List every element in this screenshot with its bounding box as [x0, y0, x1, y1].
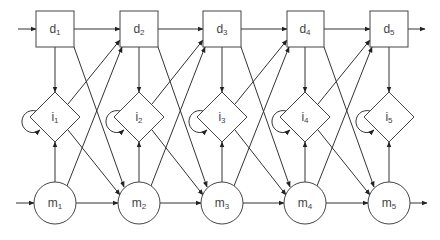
node-d5: d5	[370, 11, 408, 47]
node-m1: m1	[34, 182, 76, 224]
node-i5: i5	[364, 92, 414, 142]
hmm-diagram: d1 d2 d3 d4 d5 i1 i2 i3 i4 i5 m1 m2 m3 m…	[0, 0, 440, 240]
node-i1: i1	[30, 92, 80, 142]
node-m5: m5	[368, 182, 410, 224]
node-i3: i3	[197, 92, 247, 142]
node-d4: d4	[287, 11, 324, 47]
node-m4: m4	[284, 182, 326, 224]
edge-i3-m4	[235, 130, 286, 195]
node-i2: i2	[114, 92, 164, 142]
node-d3: d3	[203, 11, 241, 47]
node-m2: m2	[118, 182, 160, 224]
node-d1: d1	[36, 11, 74, 47]
node-i4: i4	[280, 92, 330, 142]
node-d2: d2	[120, 11, 158, 47]
node-m3: m3	[201, 182, 243, 224]
